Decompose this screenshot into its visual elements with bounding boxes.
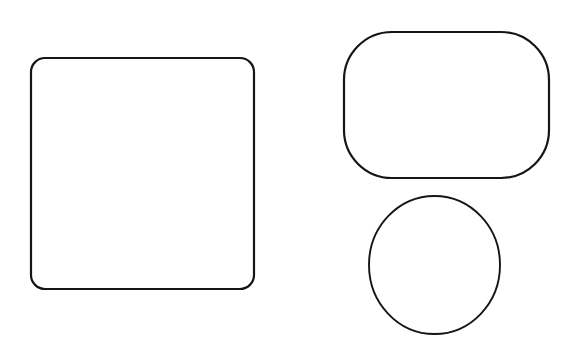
shapes-canvas: [0, 0, 581, 352]
rounded-rectangle-shape: [344, 32, 549, 178]
circle-shape: [369, 196, 500, 334]
shapes-svg: [0, 0, 581, 352]
rounded-square-shape: [31, 58, 254, 289]
